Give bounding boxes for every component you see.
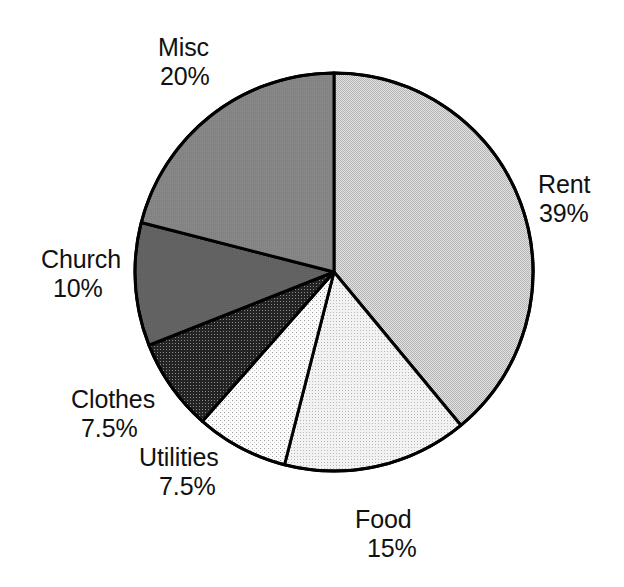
pie-slices-group [135,73,533,471]
slice-label-church-name: Church [41,245,121,274]
slice-label-utilities: Utilities 7.5% [139,443,219,501]
slice-label-church: Church 10% [41,245,121,303]
slice-label-rent-value: 39% [539,199,590,228]
slice-label-rent-name: Rent [538,170,590,199]
slice-label-food-name: Food [355,505,417,534]
slice-label-food: Food 15% [355,505,417,563]
slice-label-clothes-value: 7.5% [81,414,155,443]
slice-label-clothes-name: Clothes [71,385,155,414]
slice-label-clothes: Clothes 7.5% [71,385,155,443]
slice-label-rent: Rent 39% [538,170,590,228]
slice-label-utilities-value: 7.5% [159,472,219,501]
slice-label-church-value: 10% [53,274,121,303]
slice-label-misc-value: 20% [160,62,210,91]
slice-label-food-value: 15% [367,534,417,563]
slice-label-misc: Misc 20% [158,33,210,91]
slice-label-misc-name: Misc [158,33,210,62]
pie-chart: Misc 20% Rent 39% Church 10% Clothes 7.5… [0,0,624,587]
slice-label-utilities-name: Utilities [139,443,219,472]
